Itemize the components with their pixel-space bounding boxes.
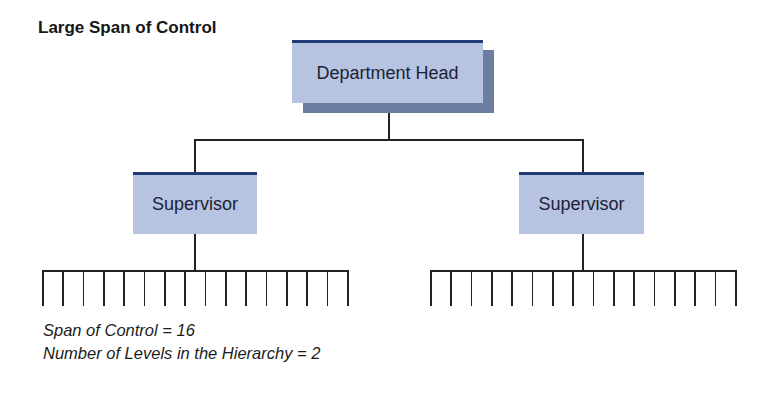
subordinate-tick	[83, 270, 85, 306]
subordinate-tick	[205, 270, 207, 306]
subordinate-tick	[593, 270, 595, 306]
subordinate-tick	[491, 270, 493, 306]
subordinate-tick	[633, 270, 635, 306]
subordinate-tick	[735, 270, 737, 306]
subordinate-tick	[654, 270, 656, 306]
head-stem-line	[388, 113, 390, 139]
subordinate-tick	[694, 270, 696, 306]
subordinate-tick	[715, 270, 717, 306]
department-head-label: Department Head	[316, 63, 458, 84]
level1-horizontal-line	[194, 139, 583, 141]
left-supervisor-stem-line	[194, 234, 196, 270]
subordinate-tick	[123, 270, 125, 306]
supervisor-label: Supervisor	[152, 194, 238, 215]
supervisor-box-left: Supervisor	[133, 172, 257, 234]
subordinate-tick	[184, 270, 186, 306]
comb-horizontal-line	[430, 270, 737, 272]
subordinate-tick	[347, 270, 349, 306]
subordinate-tick	[613, 270, 615, 306]
subordinate-tick	[674, 270, 676, 306]
subordinate-tick	[245, 270, 247, 306]
subordinate-tick	[532, 270, 534, 306]
hierarchy-levels-caption: Number of Levels in the Hierarchy = 2	[43, 344, 320, 363]
subordinate-tick	[430, 270, 432, 306]
subordinate-tick	[552, 270, 554, 306]
subordinate-tick	[144, 270, 146, 306]
left-supervisor-drop-line	[194, 139, 196, 172]
right-supervisor-stem-line	[582, 234, 584, 270]
subordinate-tick	[327, 270, 329, 306]
subordinate-tick	[266, 270, 268, 306]
subordinate-tick	[164, 270, 166, 306]
subordinate-tick	[103, 270, 105, 306]
right-supervisor-drop-line	[582, 139, 584, 172]
span-of-control-caption: Span of Control = 16	[43, 321, 195, 340]
subordinate-tick	[225, 270, 227, 306]
subordinate-tick	[572, 270, 574, 306]
supervisor-label: Supervisor	[538, 194, 624, 215]
subordinate-tick	[62, 270, 64, 306]
subordinate-tick	[306, 270, 308, 306]
subordinate-tick	[286, 270, 288, 306]
subordinate-tick	[42, 270, 44, 306]
subordinate-tick	[471, 270, 473, 306]
department-head-box: Department Head	[292, 40, 483, 103]
subordinate-tick	[450, 270, 452, 306]
comb-horizontal-line	[42, 270, 349, 272]
supervisor-box-right: Supervisor	[519, 172, 644, 234]
subordinate-tick	[511, 270, 513, 306]
diagram-title: Large Span of Control	[38, 18, 217, 38]
